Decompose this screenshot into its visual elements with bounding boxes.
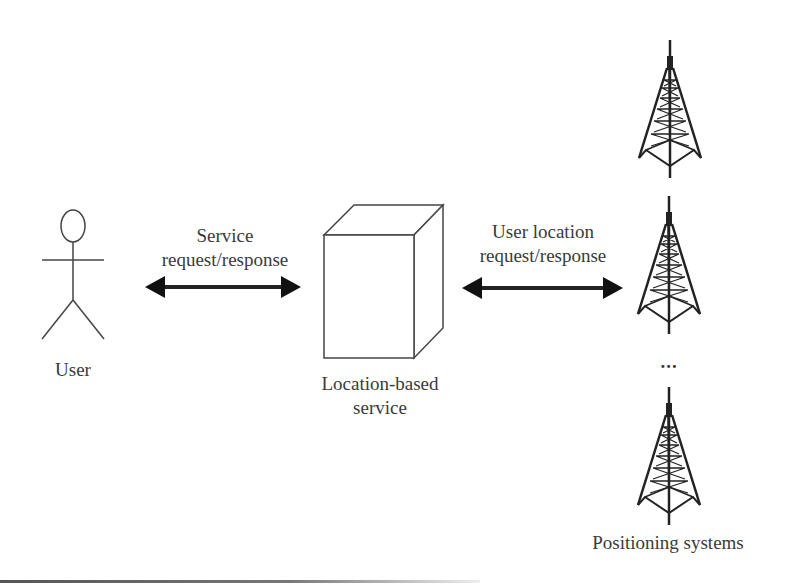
lbs-label: Location-based service [300, 372, 460, 420]
service-request-label-line1: Service [140, 224, 310, 248]
lbs-label-line2: service [300, 396, 460, 420]
double-arrow-icon [462, 277, 623, 299]
bottom-divider [0, 580, 480, 583]
user-location-label: User location request/response [458, 220, 628, 268]
positioning-label: Positioning systems [578, 531, 758, 555]
radio-tower-icon [639, 40, 701, 178]
diagram-canvas [0, 0, 790, 584]
ellipsis: ... [649, 350, 689, 374]
user-label: User [48, 358, 98, 382]
user-location-label-line1: User location [458, 220, 628, 244]
radio-tower-icon [638, 387, 700, 525]
service-request-label: Service request/response [140, 224, 310, 272]
user-location-label-line2: request/response [458, 244, 628, 268]
lbs-label-line1: Location-based [300, 372, 460, 396]
double-arrow-icon [145, 276, 301, 298]
service-request-label-line2: request/response [140, 248, 310, 272]
server-box-icon [324, 205, 443, 358]
radio-tower-icon [638, 196, 700, 334]
stick-figure-icon [42, 210, 104, 339]
